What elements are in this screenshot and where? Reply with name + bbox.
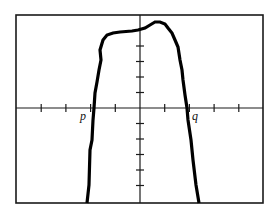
label-q: q (192, 109, 198, 123)
graph-window: p q (0, 0, 277, 216)
label-p: p (79, 109, 86, 123)
function-curve (87, 22, 199, 203)
